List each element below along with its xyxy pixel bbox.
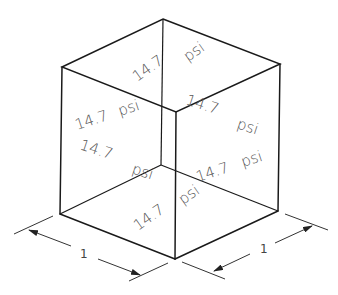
cube-diagram: 14.7 psi 14.7 psi 14.7 psi 14.7 psi 14.7… — [0, 0, 338, 295]
dimension-left-label: 1 — [80, 247, 88, 261]
label-left-upper-unit: psi — [116, 96, 142, 120]
dimension-right-label: 1 — [260, 242, 268, 256]
label-top-value: 14.7 — [129, 51, 167, 85]
dimension-arrow-left-a — [29, 230, 71, 246]
label-right-upper-unit: psi — [235, 115, 261, 139]
edge-back-vertical — [161, 19, 163, 165]
top-face-outline — [62, 19, 280, 112]
dimension-arrow-right-a — [214, 254, 250, 271]
label-right-upper-value: 14.7 — [184, 91, 221, 118]
extension-line-left-b — [129, 263, 168, 281]
edge-left-vertical — [60, 67, 62, 214]
label-left-lower-unit: psi — [130, 160, 156, 184]
pressure-labels: 14.7 psi 14.7 psi 14.7 psi 14.7 psi 14.7… — [73, 38, 265, 234]
extension-line-right-b — [285, 214, 328, 230]
dimension-arrow-left-b — [98, 259, 140, 275]
dimension-arrow-right-b — [275, 226, 312, 243]
label-left-lower-value: 14.7 — [78, 136, 115, 163]
label-bottom-value: 14.7 — [130, 200, 168, 234]
edge-front-vertical — [175, 112, 176, 259]
edge-right-vertical — [278, 64, 280, 211]
extension-line-right-a — [182, 262, 225, 279]
label-right-lower-value: 14.7 — [194, 158, 231, 185]
label-right-lower-unit: psi — [239, 147, 265, 171]
dimension-right: 1 — [182, 214, 328, 279]
label-left-upper-value: 14.7 — [73, 106, 110, 133]
label-top-unit: psi — [180, 38, 208, 65]
